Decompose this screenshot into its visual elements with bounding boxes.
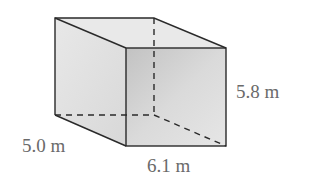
front-face xyxy=(126,48,226,146)
height-label: 5.8 m xyxy=(236,81,280,102)
prism-diagram: 5.8 m 5.0 m 6.1 m xyxy=(0,0,316,180)
depth-label: 5.0 m xyxy=(22,135,66,156)
width-label: 6.1 m xyxy=(147,155,191,176)
